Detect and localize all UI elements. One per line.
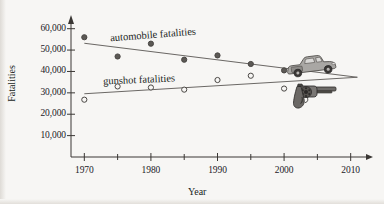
revolver-icon	[287, 79, 339, 112]
chart-page: Fatalities Year automobile fatalities gu…	[0, 0, 384, 204]
car-icon	[280, 50, 340, 78]
